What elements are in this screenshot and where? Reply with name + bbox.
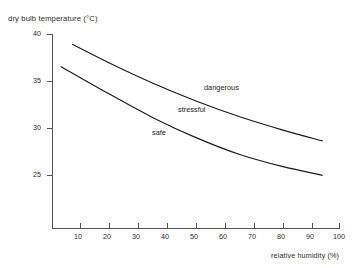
x-tick-label-80: 80: [277, 233, 285, 240]
x-tick-label-10: 10: [74, 233, 82, 240]
y-tick-label-25: 25: [33, 171, 41, 178]
y-tick-label-40: 40: [33, 30, 41, 37]
x-tick-label-40: 40: [161, 233, 169, 240]
x-tick-label-50: 50: [190, 233, 198, 240]
axis-frame: [53, 34, 341, 229]
x-axis-ticks: [81, 223, 340, 229]
x-tick-label-60: 60: [219, 233, 227, 240]
chart-container: dry bulb temperature (°C) relative humid…: [0, 0, 352, 268]
y-axis-ticks: [47, 35, 53, 176]
y-tick-label-30: 30: [33, 124, 41, 131]
x-tick-label-90: 90: [306, 233, 314, 240]
chart-plot-area: [0, 0, 352, 268]
curve-safe-boundary: [61, 67, 322, 176]
x-tick-label-100: 100: [333, 233, 345, 240]
region-label-stressful: stressful: [178, 106, 206, 113]
y-tick-label-35: 35: [33, 77, 41, 84]
x-tick-label-20: 20: [103, 233, 111, 240]
axis-lines: [53, 34, 341, 229]
x-tick-label-30: 30: [132, 233, 140, 240]
region-label-dangerous: dangerous: [204, 84, 239, 91]
curve-dangerous-boundary: [73, 44, 323, 140]
region-label-safe: safe: [152, 129, 166, 136]
x-tick-label-70: 70: [248, 233, 256, 240]
